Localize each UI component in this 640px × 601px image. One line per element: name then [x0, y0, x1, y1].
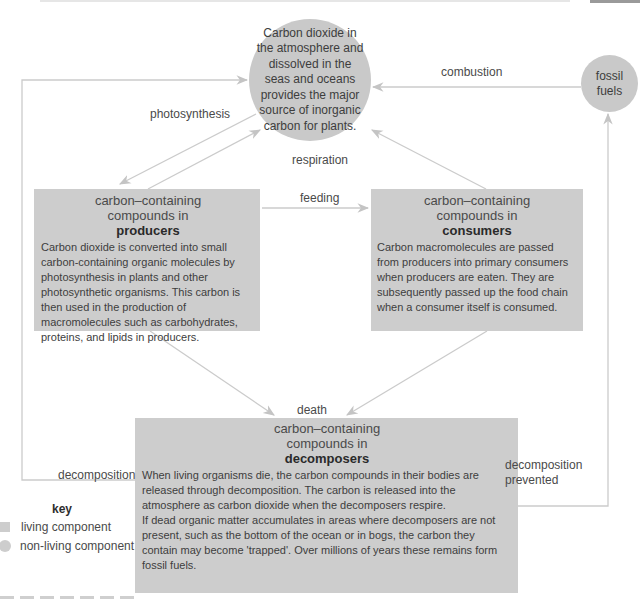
label-death: death — [297, 403, 327, 417]
label-decomposition: decomposition — [58, 468, 135, 482]
fossil-fuels-node: fossil fuels — [581, 55, 638, 112]
decomposers-heading: decomposers — [142, 451, 512, 466]
label-combustion: combustion — [441, 65, 502, 79]
decomposers-body-1: When living organisms die, the carbon co… — [142, 468, 512, 513]
producers-body: Carbon dioxide is converted into small c… — [41, 240, 255, 345]
consumers-title-text: carbon–containing compounds in — [412, 193, 542, 223]
label-respiration: respiration — [292, 153, 348, 167]
fossil-fuels-text: fossil fuels — [590, 69, 630, 99]
label-decomposition-prevented-line1: decomposition — [505, 458, 582, 472]
consumers-node: carbon–containing compounds in consumers… — [371, 189, 583, 331]
arrow-respiration-producers — [148, 130, 260, 189]
producers-title: carbon–containing compounds in producers — [41, 193, 255, 238]
key-non-living: non-living component — [0, 539, 134, 553]
decomposers-body-2: If dead organic matter accumulates in ar… — [142, 513, 512, 573]
key-title: key — [52, 502, 72, 516]
figure-caption — [0, 596, 140, 599]
decomposers-title: carbon–containing compounds in decompose… — [142, 421, 512, 466]
producers-heading: producers — [41, 223, 255, 238]
atmosphere-co2-text: Carbon dioxide in the atmosphere and dis… — [256, 26, 364, 135]
producers-node: carbon–containing compounds in producers… — [34, 189, 260, 331]
non-living-circle-icon — [0, 540, 11, 552]
key-living: living component — [0, 520, 111, 534]
arrow-respiration-consumers — [372, 130, 486, 189]
consumers-heading: consumers — [377, 223, 577, 238]
atmosphere-co2-node: Carbon dioxide in the atmosphere and dis… — [249, 19, 371, 141]
arrow-death-consumers — [347, 331, 487, 415]
living-square-icon — [0, 522, 10, 532]
label-photosynthesis: photosynthesis — [150, 107, 230, 121]
decomposers-node: carbon–containing compounds in decompose… — [135, 418, 518, 593]
label-feeding: feeding — [300, 191, 339, 205]
consumers-title: carbon–containing compounds in consumers — [377, 193, 577, 238]
label-decomposition-prevented-line2: prevented — [505, 473, 558, 487]
decomposers-title-text: carbon–containing compounds in — [262, 421, 392, 451]
arrow-photosynthesis — [120, 114, 256, 184]
key-non-living-label: non-living component — [20, 539, 134, 553]
key-living-label: living component — [21, 520, 111, 534]
consumers-body: Carbon macromolecules are passed from pr… — [377, 240, 577, 315]
producers-title-text: carbon–containing compounds in — [83, 193, 213, 223]
